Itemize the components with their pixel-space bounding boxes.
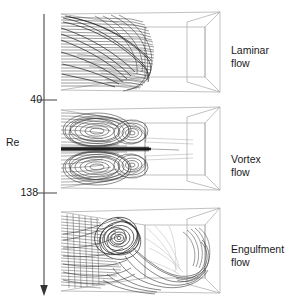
vortex-separating-plane [61, 147, 179, 150]
regime-label-vortex: Vortex flow [231, 153, 290, 178]
re-axis: 40 138 Re [0, 0, 58, 304]
re-axis-svg [0, 0, 58, 304]
axis-title-re: Re [6, 137, 38, 148]
panel-laminar-flow [59, 8, 222, 95]
laminar-flow-visualization [59, 8, 222, 95]
engulfment-flow-visualization [59, 204, 222, 297]
regime-label-engulfment-line2: flow [231, 256, 290, 269]
axis-tick-label-40: 40 [12, 94, 42, 105]
regime-label-laminar: Laminar flow [231, 44, 290, 69]
flow-regime-figure: 40 138 Re [0, 0, 290, 304]
vortex-flow-visualization [59, 104, 222, 193]
axis-tick-label-138: 138 [8, 187, 38, 198]
panel-engulfment-flow [59, 204, 222, 297]
regime-label-laminar-line1: Laminar [231, 44, 269, 56]
regime-label-engulfment-line1: Engulfment [231, 243, 284, 255]
down-arrow-icon [40, 285, 48, 296]
regime-label-laminar-line2: flow [231, 57, 290, 70]
regime-label-vortex-line2: flow [231, 166, 290, 179]
regime-label-vortex-line1: Vortex [231, 153, 261, 165]
engulfment-far-field-lines [145, 226, 183, 274]
regime-label-engulfment: Engulfment flow [231, 243, 290, 268]
panel-vortex-flow [59, 104, 222, 193]
